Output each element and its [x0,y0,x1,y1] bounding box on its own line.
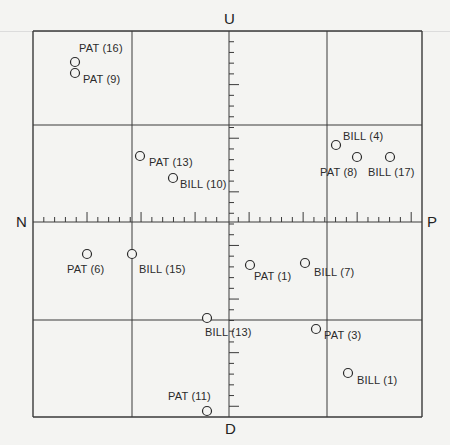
axis-label-right: P [427,214,437,229]
data-point-marker [312,325,321,334]
data-point-marker [128,250,137,259]
data-point-marker [83,250,92,259]
data-point-label: BILL (4) [343,131,383,142]
data-point-label: PAT (11) [168,391,211,402]
data-point-marker [332,141,341,150]
data-point-marker [353,153,362,162]
data-point-label: BILL (15) [139,264,186,275]
data-point-label: BILL (7) [314,267,354,278]
data-point-marker [136,152,145,161]
data-point-marker [246,261,255,270]
data-point-marker [203,314,212,323]
data-point-marker [71,69,80,78]
data-point-label: BILL (1) [357,375,397,386]
data-point-label: BILL (17) [368,167,415,178]
data-point-marker [344,369,353,378]
axis-label-bottom: D [225,421,236,436]
data-point-marker [203,407,212,416]
data-point-label: PAT (8) [320,167,357,178]
data-point-label: PAT (1) [254,271,291,282]
data-point-marker [301,259,310,268]
axis-label-top: U [224,11,235,26]
data-point-marker [169,174,178,183]
data-point-label: PAT (16) [79,43,123,54]
data-point-marker [386,153,395,162]
data-point-marker [71,58,80,67]
data-point-label: BILL (10) [180,179,227,190]
data-point-label: PAT (3) [324,330,361,341]
data-point-label: PAT (13) [149,157,193,168]
axis-label-left: N [16,214,27,229]
data-point-label: PAT (6) [67,264,104,275]
data-point-label: PAT (9) [83,74,120,85]
data-point-label: BILL (13) [205,327,252,338]
